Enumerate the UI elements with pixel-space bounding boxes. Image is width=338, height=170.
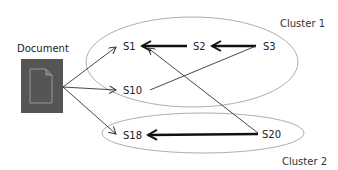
- node-s2: S2: [193, 41, 206, 52]
- edge-document-s18: [63, 87, 116, 134]
- node-s10: S10: [123, 85, 142, 96]
- node-s1: S1: [123, 41, 136, 52]
- cluster-2-label: Cluster 2: [282, 156, 327, 167]
- document-node: [21, 59, 63, 113]
- cluster-1-label: Cluster 1: [280, 18, 325, 29]
- edge-s20-s18: [148, 134, 258, 135]
- edge-s10-s3: [150, 46, 256, 90]
- edge-document-s1: [63, 47, 116, 87]
- document-label: Document: [17, 43, 69, 54]
- edge-s20-s1: [148, 48, 258, 133]
- node-s20: S20: [262, 129, 281, 140]
- node-s3: S3: [263, 41, 276, 52]
- edge-document-s10: [63, 87, 116, 90]
- diagram-canvas: Cluster 1 Cluster 2 Document S1 S2 S3 S1…: [0, 0, 338, 170]
- node-s18: S18: [123, 130, 142, 141]
- cluster-1-ellipse: [86, 17, 298, 107]
